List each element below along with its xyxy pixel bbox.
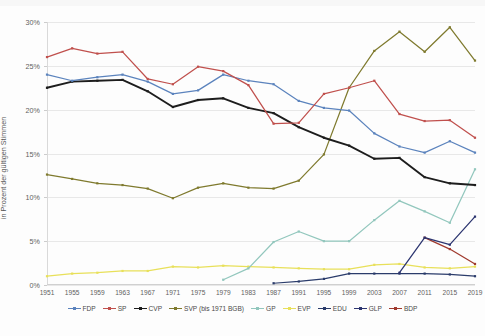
- x-tick-label: 1995: [317, 289, 332, 296]
- data-point: [272, 112, 274, 114]
- data-point: [373, 132, 375, 134]
- data-point: [298, 267, 300, 269]
- data-point: [323, 153, 325, 155]
- data-point: [323, 137, 325, 139]
- data-point: [247, 107, 249, 109]
- series-line: [47, 75, 475, 153]
- data-point: [474, 152, 476, 154]
- data-point: [147, 187, 149, 189]
- x-tick-label: 1971: [166, 289, 181, 296]
- legend-item-sp[interactable]: SP: [103, 305, 127, 312]
- data-point: [46, 173, 48, 175]
- x-tick-label: 1987: [266, 289, 281, 296]
- legend-item-evp[interactable]: EVP: [283, 305, 311, 312]
- data-point: [71, 80, 73, 82]
- data-point: [424, 237, 426, 239]
- data-point: [172, 106, 174, 108]
- series-line: [47, 48, 475, 137]
- data-point: [449, 182, 451, 184]
- legend-swatch-icon: [354, 305, 367, 312]
- legend-swatch-icon: [103, 305, 116, 312]
- data-point: [348, 268, 350, 270]
- data-point: [474, 59, 476, 61]
- legend-item-bdp[interactable]: BDP: [389, 305, 418, 312]
- data-point: [398, 157, 400, 159]
- series-edu: [272, 273, 476, 285]
- data-point: [147, 90, 149, 92]
- data-point: [424, 152, 426, 154]
- legend-swatch-icon: [389, 305, 402, 312]
- data-point: [474, 275, 476, 277]
- data-point: [298, 100, 300, 102]
- legend-marker: [394, 307, 397, 310]
- data-point: [46, 74, 48, 76]
- x-tick-label: 2019: [468, 289, 483, 296]
- data-point: [222, 70, 224, 72]
- data-point: [398, 113, 400, 115]
- legend-item-cvp[interactable]: CVP: [134, 305, 163, 312]
- data-point: [398, 145, 400, 147]
- data-point: [121, 74, 123, 76]
- y-tick-label: 0%: [30, 281, 40, 290]
- legend-swatch-icon: [134, 305, 147, 312]
- data-point: [272, 187, 274, 189]
- data-point: [373, 50, 375, 52]
- data-point: [272, 123, 274, 125]
- series-fdp: [46, 74, 476, 154]
- y-tick-label: 20%: [26, 105, 40, 114]
- data-point: [247, 187, 249, 189]
- data-point: [172, 93, 174, 95]
- legend-marker: [139, 307, 142, 310]
- x-tick-label: 1975: [191, 289, 206, 296]
- y-tick-label: 25%: [26, 61, 40, 70]
- data-point: [449, 119, 451, 121]
- series-gp: [222, 168, 476, 281]
- data-point: [323, 278, 325, 280]
- data-point: [398, 200, 400, 202]
- legend-swatch-icon: [169, 305, 182, 312]
- legend-item-gp[interactable]: GP: [251, 305, 276, 312]
- data-point: [323, 240, 325, 242]
- legend-label: FDP: [83, 305, 96, 312]
- legend-label: SP: [118, 305, 127, 312]
- data-point: [96, 52, 98, 54]
- series-line: [425, 238, 475, 264]
- data-point: [474, 263, 476, 265]
- data-point: [147, 81, 149, 83]
- x-tick-label: 2015: [442, 289, 457, 296]
- y-tick-label: 30%: [26, 18, 40, 27]
- data-point: [424, 176, 426, 178]
- data-point: [424, 210, 426, 212]
- legend-item-edu[interactable]: EDU: [318, 305, 347, 312]
- legend-marker: [73, 307, 76, 310]
- data-point: [449, 244, 451, 246]
- x-tick-label: 1955: [65, 289, 80, 296]
- legend-item-fdp[interactable]: FDP: [68, 305, 96, 312]
- legend-marker: [359, 307, 362, 310]
- data-point: [71, 273, 73, 275]
- data-point: [298, 122, 300, 124]
- series-line: [274, 274, 475, 284]
- data-point: [424, 51, 426, 53]
- series-line: [47, 264, 475, 276]
- data-point: [424, 120, 426, 122]
- legend-swatch-icon: [283, 305, 296, 312]
- data-point: [272, 266, 274, 268]
- data-point: [46, 275, 48, 277]
- data-point: [272, 241, 274, 243]
- y-axis-ticks: 0%5%10%15%20%25%30%: [0, 0, 45, 336]
- x-tick-label: 1967: [140, 289, 155, 296]
- y-tick-label: 5%: [30, 237, 40, 246]
- data-point: [121, 79, 123, 81]
- legend-marker: [288, 307, 291, 310]
- data-point: [449, 248, 451, 250]
- legend-item-svp-bis-1971-bgb-[interactable]: SVP (bis 1971 BGB): [169, 305, 244, 312]
- legend-item-glp[interactable]: GLP: [354, 305, 382, 312]
- x-tick-label: 1999: [342, 289, 357, 296]
- data-point: [96, 272, 98, 274]
- data-point: [121, 184, 123, 186]
- data-point: [449, 273, 451, 275]
- data-point: [474, 265, 476, 267]
- data-point: [449, 26, 451, 28]
- data-point: [197, 66, 199, 68]
